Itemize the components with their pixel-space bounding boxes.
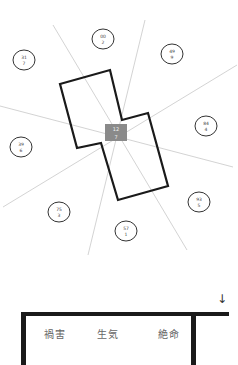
floor-plan: ↓ 禍害 生気 絶命	[0, 280, 238, 365]
sector-circle: 317	[13, 50, 35, 70]
center-value: 12	[113, 126, 119, 132]
sector-star: 9	[171, 55, 174, 60]
sector-value: 00	[100, 34, 106, 39]
sector-value: 31	[21, 55, 27, 60]
sector-value: 39	[18, 142, 24, 147]
room-label-seiki: 生気	[97, 326, 118, 341]
sector-value: 84	[203, 121, 209, 126]
sector-star: 1	[125, 232, 128, 237]
sector-star: 5	[198, 203, 201, 208]
sector-circle: 753	[48, 202, 70, 222]
bagua-diagram: 12 7 002317499844396935753571	[0, 0, 238, 270]
room-label-kagai: 禍害	[44, 326, 65, 341]
sector-circle: 499	[161, 44, 183, 64]
wall-top	[21, 312, 229, 316]
sector-star: 6	[20, 148, 23, 153]
sector-circle: 396	[10, 137, 32, 157]
sector-circle: 571	[115, 221, 137, 241]
sector-value: 75	[56, 207, 62, 212]
wall-partition	[191, 312, 196, 365]
sector-star: 4	[205, 127, 208, 132]
sector-circle: 935	[188, 192, 210, 212]
sector-circle: 002	[92, 29, 114, 49]
sector-value: 57	[123, 226, 129, 231]
sector-circle: 844	[195, 116, 217, 136]
center-marker: 12 7	[105, 124, 127, 141]
center-star: 7	[114, 134, 117, 140]
sector-value: 93	[196, 197, 202, 202]
wall-left	[21, 312, 26, 365]
sector-star: 7	[23, 61, 26, 66]
sector-star: 2	[102, 40, 105, 45]
sector-value: 49	[169, 49, 175, 54]
north-arrow-icon: ↓	[217, 292, 227, 306]
sector-star: 3	[58, 213, 61, 218]
room-label-zetsumei: 絶命	[158, 326, 179, 341]
